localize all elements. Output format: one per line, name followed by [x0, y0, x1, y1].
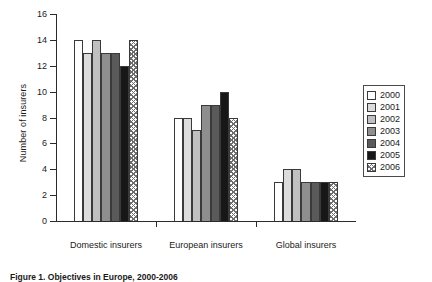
bar-2005-european	[220, 92, 229, 221]
y-tick-label: 12	[37, 61, 47, 71]
x-axis-label: European insurers	[169, 240, 243, 250]
y-axis-title: Number of insurers	[18, 43, 28, 203]
x-axis-label: Domestic insurers	[70, 240, 142, 250]
bar-2005-global	[320, 182, 329, 221]
legend-item-2005: 2005	[367, 149, 400, 161]
bar-2001-european	[183, 118, 192, 222]
x-tick-mark	[156, 221, 157, 227]
y-tick-label: 6	[42, 138, 47, 148]
legend-label: 2005	[380, 151, 400, 160]
bar-2003-global	[301, 182, 310, 221]
y-tick-label: 8	[42, 113, 47, 123]
bar-2003-domestic	[101, 53, 110, 221]
legend-label: 2006	[380, 163, 400, 172]
legend-swatch-2004	[367, 139, 376, 148]
plot-area: 0246810121416 Domestic insurersEuropean …	[56, 14, 356, 222]
bar-2004-global	[311, 182, 320, 221]
bar-2006-global	[329, 182, 338, 221]
legend-swatch-2002	[367, 115, 376, 124]
bar-2006-domestic	[129, 40, 138, 221]
legend-label: 2004	[380, 139, 400, 148]
legend-item-2006: 2006	[367, 161, 400, 173]
y-tick-label: 2	[42, 190, 47, 200]
legend-item-2004: 2004	[367, 137, 400, 149]
bar-2001-domestic	[83, 53, 92, 221]
legend-label: 2001	[380, 103, 400, 112]
bar-group	[274, 14, 338, 221]
bar-2002-global	[292, 169, 301, 221]
bar-2000-domestic	[74, 40, 83, 221]
y-tick-label: 4	[42, 164, 47, 174]
bar-2002-european	[192, 130, 201, 221]
bar-2006-european	[229, 118, 238, 222]
legend-label: 2003	[380, 127, 400, 136]
x-tick-mark	[256, 221, 257, 227]
legend-item-2002: 2002	[367, 113, 400, 125]
bar-2004-european	[211, 105, 220, 221]
legend-swatch-2006	[367, 163, 376, 172]
legend-swatch-2001	[367, 103, 376, 112]
y-tick-label: 0	[42, 216, 47, 226]
bar-groups	[56, 14, 356, 222]
y-tick-label: 16	[37, 9, 47, 19]
legend-swatch-2003	[367, 127, 376, 136]
legend-label: 2002	[380, 115, 400, 124]
bar-group	[174, 14, 238, 221]
legend-item-2000: 2000	[367, 89, 400, 101]
legend-item-2003: 2003	[367, 125, 400, 137]
y-tick-label: 14	[37, 35, 47, 45]
bar-2000-european	[174, 118, 183, 222]
bar-2002-domestic	[92, 40, 101, 221]
y-tick-label: 10	[37, 87, 47, 97]
figure-caption: Figure 1. Objectives in Europe, 2000-200…	[10, 272, 178, 282]
legend-swatch-2000	[367, 91, 376, 100]
bar-2004-domestic	[111, 53, 120, 221]
bar-2000-global	[274, 182, 283, 221]
bar-2001-global	[283, 169, 292, 221]
legend-swatch-2005	[367, 151, 376, 160]
legend-item-2001: 2001	[367, 101, 400, 113]
x-axis-label: Global insurers	[276, 240, 337, 250]
bar-2005-domestic	[120, 66, 129, 221]
legend: 2000200120022003200420052006	[363, 85, 405, 177]
bar-2003-european	[201, 105, 210, 221]
bar-group	[74, 14, 138, 221]
legend-label: 2000	[380, 91, 400, 100]
